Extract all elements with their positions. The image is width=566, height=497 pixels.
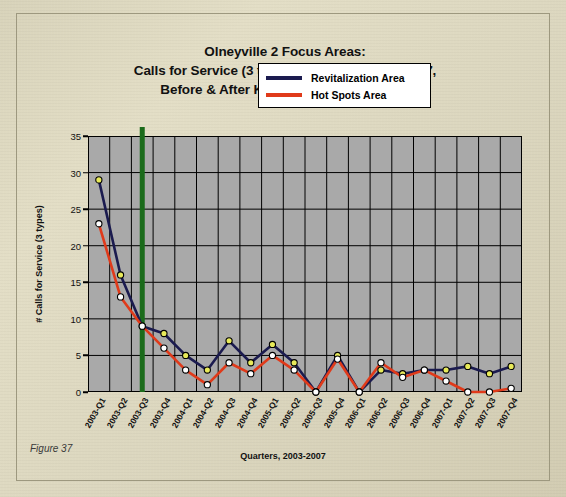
legend-swatch-revitalization-area [266,76,302,80]
y-tick-label: 5 [76,350,81,361]
legend-item-revitalization-area: Revitalization Area [259,69,430,86]
y-tick-mark [83,318,88,320]
y-tick-mark [83,282,88,284]
y-axis-label: # Calls for Service (3 types) [34,205,44,323]
plot-area: 05101520253035 2003-Q12003-Q22003-Q32003… [88,136,522,392]
legend-label-hot-spots-area: Hot Spots Area [311,89,386,101]
figure-page: Olneyville 2 Focus Areas: Calls for Serv… [0,0,566,497]
y-tick-label: 10 [70,313,81,324]
legend-item-hot-spots-area: Hot Spots Area [259,86,430,103]
y-tick-mark [83,172,88,174]
y-tick-label: 25 [70,204,81,215]
series-layer [88,136,522,392]
y-tick-mark [83,355,88,357]
y-tick-label: 15 [70,277,81,288]
y-tick-label: 30 [70,167,81,178]
figure-caption: Figure 37 [30,443,72,454]
y-tick-mark [83,208,88,210]
y-tick-label: 35 [70,131,81,142]
x-axis-label: Quarters, 2003-2007 [0,451,566,461]
legend-swatch-hot-spots-area [266,93,302,97]
y-tick-label: 20 [70,240,81,251]
chart-title-line-1: Olneyville 2 Focus Areas: [60,42,510,61]
y-tick-mark [83,391,88,393]
chart-legend: Revitalization Area Hot Spots Area [258,63,431,108]
y-tick-label: 0 [76,387,81,398]
y-tick-mark [83,245,88,247]
y-tick-mark [83,135,88,137]
legend-label-revitalization-area: Revitalization Area [311,72,405,84]
